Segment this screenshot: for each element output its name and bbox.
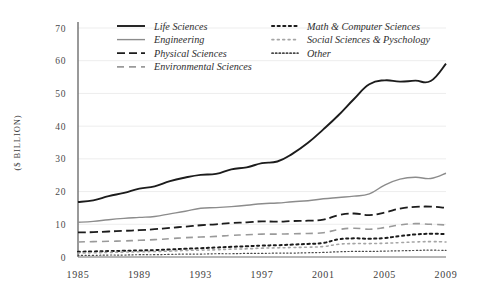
line-chart: 706050403020100 198519891993199720012005… bbox=[0, 0, 478, 296]
x-tick-label: 2009 bbox=[435, 269, 458, 280]
y-axis-tick-labels: 706050403020100 bbox=[55, 24, 66, 263]
legend-label: Life Sciences bbox=[153, 21, 207, 32]
x-tick-label: 1989 bbox=[128, 269, 151, 280]
series-line bbox=[78, 224, 446, 242]
x-tick-label: 1997 bbox=[251, 269, 274, 280]
y-tick-label: 50 bbox=[55, 89, 66, 99]
y-tick-label: 10 bbox=[55, 220, 66, 230]
y-tick-label: 70 bbox=[55, 24, 66, 34]
y-tick-label: 0 bbox=[61, 253, 66, 263]
legend-label: Social Sciences & Pyschology bbox=[307, 34, 431, 45]
y-tick-label: 40 bbox=[55, 122, 66, 132]
legend-label: Environmental Sciences bbox=[153, 61, 252, 72]
series-line bbox=[78, 173, 446, 222]
x-tick-label: 2005 bbox=[373, 269, 396, 280]
x-tick-label: 1985 bbox=[67, 269, 90, 280]
series-line bbox=[78, 64, 446, 202]
y-tick-label: 30 bbox=[55, 154, 66, 164]
data-series-group bbox=[78, 64, 446, 256]
x-tick-label: 1993 bbox=[189, 269, 212, 280]
x-axis-tick-labels: 1985198919931997200120052009 bbox=[67, 269, 458, 280]
legend-label: Physical Sciences bbox=[153, 48, 227, 59]
legend-label: Other bbox=[307, 48, 331, 59]
y-axis-title: ($ BILLION) bbox=[12, 115, 22, 171]
x-tick-label: 2001 bbox=[312, 269, 335, 280]
y-tick-label: 60 bbox=[55, 56, 66, 66]
chart-container: 706050403020100 198519891993199720012005… bbox=[0, 0, 478, 296]
y-tick-label: 20 bbox=[55, 187, 66, 197]
legend-label: Engineering bbox=[153, 34, 204, 45]
series-line bbox=[78, 207, 446, 233]
legend-label: Math & Computer Sciences bbox=[306, 21, 420, 32]
grid-lines bbox=[78, 28, 446, 224]
y-axis-title-label: ($ BILLION) bbox=[12, 115, 22, 171]
